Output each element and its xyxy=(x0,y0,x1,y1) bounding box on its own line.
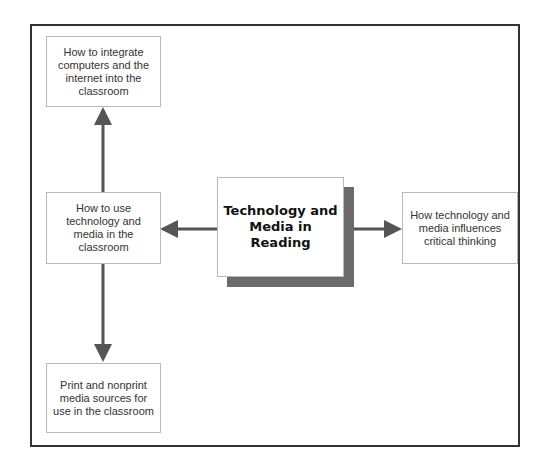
node-critical-thinking: How technology and media influences crit… xyxy=(402,192,518,264)
node-print-nonprint-sources: Print and nonprint media sources for use… xyxy=(46,363,161,433)
node-integrate-computers-internet: How to integrate computers and the inter… xyxy=(46,36,161,107)
node-label: How to integrate computers and the inter… xyxy=(53,46,154,98)
center-node: Technology and Media in Reading xyxy=(217,177,344,277)
node-label: Print and nonprint media sources for use… xyxy=(53,379,154,418)
node-label: How to use technology and media in the c… xyxy=(53,202,154,254)
center-node-title: Technology and Media in Reading xyxy=(222,203,339,251)
node-use-technology-media: How to use technology and media in the c… xyxy=(46,192,161,264)
node-label: How technology and media influences crit… xyxy=(409,209,511,248)
